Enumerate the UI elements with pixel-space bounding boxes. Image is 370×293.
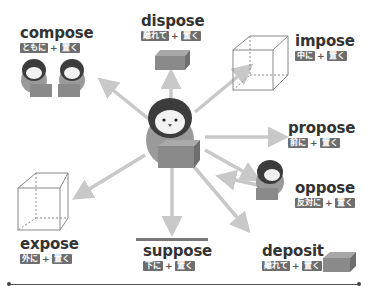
expose-cube-icon (18, 173, 68, 230)
suppose-bar (136, 238, 208, 241)
word-english: propose (288, 120, 355, 136)
root-tag: 置く (335, 198, 355, 208)
prefix-tag: 前に (288, 138, 308, 148)
word-impose: impose 中に+置く (295, 33, 355, 61)
rule-end-dot (357, 282, 361, 286)
oppose-penguin-icon (256, 160, 284, 200)
word-english: suppose (143, 243, 212, 259)
rule-start-dot (7, 282, 11, 286)
word-english: expose (20, 236, 79, 252)
root-tag: 置く (60, 43, 80, 53)
word-compose: compose ともに+置く (20, 25, 94, 53)
root-tag: 置く (302, 261, 322, 271)
bottom-rule (8, 284, 360, 285)
word-expose: expose 外に+置く (20, 236, 79, 264)
word-propose: propose 前に+置く (288, 120, 355, 148)
word-english: impose (295, 33, 355, 49)
root-tag: 置く (52, 254, 72, 264)
word-english: dispose (141, 13, 205, 29)
prefix-tag: 離れて (141, 31, 169, 41)
deposit-box-icon (323, 252, 356, 272)
prefix-tag: 中に (295, 51, 315, 61)
prefix-tag: 反対に (295, 198, 323, 208)
word-suppose: suppose 下に+置く (143, 243, 212, 271)
center-penguin-icon (146, 98, 200, 168)
dispose-box-icon (155, 50, 190, 70)
word-dispose: dispose 離れて+置く (141, 13, 205, 41)
prefix-tag: ともに (20, 43, 48, 53)
root-tag: 置く (320, 138, 340, 148)
prefix-tag: 下に (143, 261, 163, 271)
prefix-tag: 外に (20, 254, 40, 264)
word-english: compose (20, 25, 94, 41)
word-english: deposit (262, 243, 324, 259)
root-tag: 置く (175, 261, 195, 271)
root-tag: 置く (327, 51, 347, 61)
word-english: oppose (295, 180, 355, 196)
impose-cube-icon (233, 36, 288, 90)
word-deposit: deposit 離れて+置く (262, 243, 324, 271)
compose-penguins-icon (21, 59, 85, 97)
root-tag: 置く (181, 31, 201, 41)
prefix-tag: 離れて (262, 261, 290, 271)
word-oppose: oppose 反対に+置く (295, 180, 355, 208)
